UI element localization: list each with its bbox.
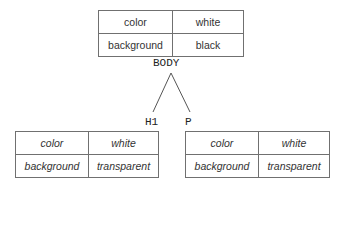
value-cell: white (259, 132, 330, 155)
value-cell: transparent (89, 155, 159, 178)
h1-node-label: H1 (145, 117, 158, 128)
table-row: color white (186, 132, 330, 155)
property-cell: color (16, 132, 89, 155)
value-cell: transparent (259, 155, 330, 178)
table-row: background transparent (16, 155, 159, 178)
table-row: background transparent (186, 155, 330, 178)
property-cell: color (186, 132, 259, 155)
h1-properties-table: color white background transparent (15, 131, 159, 178)
edge-body-p (171, 73, 190, 112)
property-cell: background (186, 155, 259, 178)
property-cell: background (16, 155, 89, 178)
p-properties-table: color white background transparent (185, 131, 330, 178)
p-node-label: P (185, 117, 192, 128)
table-row: color white (16, 132, 159, 155)
edge-body-h1 (153, 73, 171, 112)
value-cell: white (89, 132, 159, 155)
